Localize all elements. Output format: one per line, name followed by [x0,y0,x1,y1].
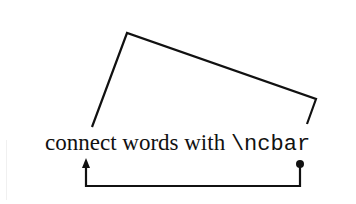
bottom-bar-connector [86,164,300,186]
arrow-head-icon [82,158,90,168]
dot-marker-icon [296,160,304,168]
caption-text: connect words with [45,130,231,155]
top-angled-connector [92,33,316,127]
diagram-canvas [0,0,356,204]
caption-sentence: connect words with \ncbar [45,128,310,158]
caption-command: \ncbar [231,132,310,157]
